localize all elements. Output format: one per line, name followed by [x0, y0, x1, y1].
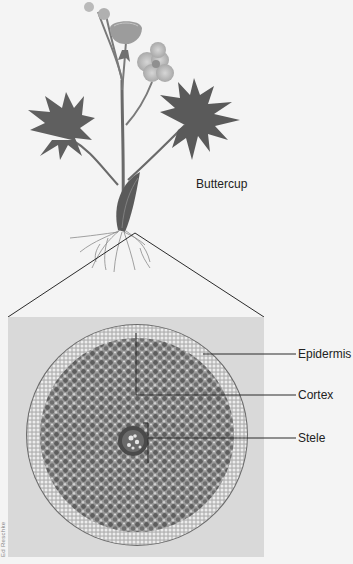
label-stele: Stele — [298, 432, 325, 444]
buttercup-illustration — [28, 2, 240, 272]
right-leaf — [160, 78, 240, 160]
diagram-graphic — [0, 0, 353, 564]
flower-cup — [110, 21, 142, 44]
root-cross-section — [26, 324, 248, 546]
label-epidermis: Epidermis — [298, 348, 351, 360]
flower-open — [137, 42, 174, 82]
zoom-indicator-lines — [8, 233, 264, 317]
photo-credit: Ed Reschke — [0, 522, 6, 557]
flower-buds — [84, 2, 110, 20]
plant-name-label: Buttercup — [196, 178, 247, 190]
label-cortex: Cortex — [298, 389, 333, 401]
figure: Buttercup Epidermis Cortex Stele Ed Resc… — [0, 0, 353, 564]
roots — [70, 230, 150, 272]
